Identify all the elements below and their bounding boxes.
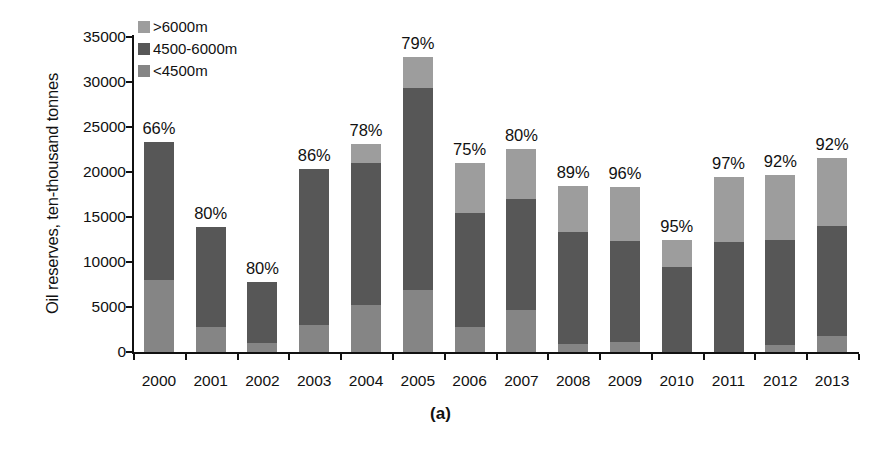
y-axis-title: Oil reserves, ten-thousand tonnes xyxy=(43,24,62,364)
y-tick-label: 20000 xyxy=(64,163,126,181)
y-tick-label: 0 xyxy=(64,343,126,361)
x-tick xyxy=(288,354,290,360)
y-tick-label: 15000 xyxy=(64,208,126,226)
y-tick-label: 35000 xyxy=(64,28,126,46)
bar-2012[interactable] xyxy=(765,175,795,352)
x-tick xyxy=(547,354,549,360)
bar-2010[interactable] xyxy=(662,240,692,353)
y-tick xyxy=(126,216,133,218)
bar-2007[interactable] xyxy=(506,149,536,352)
x-tick xyxy=(806,354,808,360)
bar-segment-lt4500 xyxy=(403,290,433,352)
bar-segment-lt4500 xyxy=(144,280,174,352)
bar-segment-lt4500 xyxy=(817,336,847,352)
y-tick xyxy=(126,351,133,353)
legend-swatch-icon xyxy=(138,21,150,33)
bar-2008[interactable] xyxy=(558,186,588,352)
y-tick-label: 10000 xyxy=(64,253,126,271)
bar-segment-4500-6000 xyxy=(506,199,536,310)
bar-label-2010: 95% xyxy=(642,217,712,236)
legend-item-gt6000: >6000m xyxy=(138,16,237,38)
bar-segment-lt4500 xyxy=(247,343,277,352)
bar-segment-4500-6000 xyxy=(714,242,744,352)
bar-segment-4500-6000 xyxy=(765,240,795,345)
bar-segment-lt4500 xyxy=(455,327,485,352)
bar-segment-4500-6000 xyxy=(455,213,485,327)
bar-2009[interactable] xyxy=(610,187,640,352)
bar-segment-4500-6000 xyxy=(558,232,588,344)
bar-2004[interactable] xyxy=(351,144,381,352)
legend-item-lt4500: <4500m xyxy=(138,60,237,82)
bar-segment-4500-6000 xyxy=(196,227,226,327)
bar-2005[interactable] xyxy=(403,57,433,352)
chart-legend: >6000m 4500-6000m <4500m xyxy=(138,16,237,82)
x-tick xyxy=(754,354,756,360)
x-tick xyxy=(599,354,601,360)
bar-2011[interactable] xyxy=(714,177,744,352)
y-tick xyxy=(126,36,133,38)
bar-segment-4500-6000 xyxy=(351,163,381,305)
bar-segment-gt6000 xyxy=(817,158,847,226)
x-tick xyxy=(133,354,135,360)
bar-segment-lt4500 xyxy=(351,305,381,352)
bar-segment-lt4500 xyxy=(610,342,640,352)
x-tick xyxy=(651,354,653,360)
bar-segment-4500-6000 xyxy=(247,282,277,343)
bar-segment-gt6000 xyxy=(714,177,744,243)
legend-swatch-icon xyxy=(138,43,150,55)
legend-swatch-icon xyxy=(138,65,150,77)
bar-label-2002: 80% xyxy=(227,259,297,278)
bar-segment-4500-6000 xyxy=(144,142,174,280)
x-tick xyxy=(185,354,187,360)
bar-segment-4500-6000 xyxy=(403,88,433,290)
bar-2000[interactable] xyxy=(144,142,174,352)
chart-figure: Oil reserves, ten-thousand tonnes 050001… xyxy=(0,0,881,452)
bar-segment-4500-6000 xyxy=(817,226,847,336)
y-tick xyxy=(126,261,133,263)
bar-segment-lt4500 xyxy=(506,310,536,352)
legend-item-4500-6000: 4500-6000m xyxy=(138,38,237,60)
x-tick xyxy=(237,354,239,360)
bar-label-2000: 66% xyxy=(124,119,194,138)
bar-label-2012: 92% xyxy=(745,152,815,171)
bar-2006[interactable] xyxy=(455,163,485,352)
y-tick xyxy=(126,171,133,173)
x-tick xyxy=(858,354,860,360)
bar-segment-gt6000 xyxy=(610,187,640,241)
y-tick-label: 5000 xyxy=(64,298,126,316)
bar-segment-gt6000 xyxy=(455,163,485,213)
legend-label: >6000m xyxy=(153,16,208,38)
bar-segment-gt6000 xyxy=(351,144,381,163)
bar-2003[interactable] xyxy=(299,169,329,352)
x-tick-label: 2013 xyxy=(802,372,862,390)
bar-label-2004: 78% xyxy=(331,121,401,140)
bar-label-2005: 79% xyxy=(383,34,453,53)
bar-label-2013: 92% xyxy=(797,135,867,154)
y-tick xyxy=(126,306,133,308)
bar-segment-gt6000 xyxy=(662,240,692,267)
y-tick-label: 30000 xyxy=(64,73,126,91)
bar-segment-lt4500 xyxy=(196,327,226,352)
bar-label-2003: 86% xyxy=(279,146,349,165)
x-tick xyxy=(444,354,446,360)
bar-2013[interactable] xyxy=(817,158,847,352)
bar-2002[interactable] xyxy=(247,282,277,352)
bar-2001[interactable] xyxy=(196,227,226,352)
bar-label-2001: 80% xyxy=(176,204,246,223)
bar-segment-gt6000 xyxy=(765,175,795,240)
bar-label-2009: 96% xyxy=(590,164,660,183)
bar-segment-gt6000 xyxy=(506,149,536,199)
y-tick xyxy=(126,81,133,83)
x-tick xyxy=(392,354,394,360)
x-tick xyxy=(340,354,342,360)
bar-segment-4500-6000 xyxy=(610,241,640,342)
legend-label: 4500-6000m xyxy=(153,38,237,60)
legend-label: <4500m xyxy=(153,60,208,82)
plot-area xyxy=(133,37,858,352)
bar-label-2007: 80% xyxy=(486,126,556,145)
bar-segment-lt4500 xyxy=(558,344,588,352)
bar-segment-gt6000 xyxy=(558,186,588,233)
bar-segment-4500-6000 xyxy=(299,169,329,325)
y-tick-label: 25000 xyxy=(64,118,126,136)
bar-segment-gt6000 xyxy=(403,57,433,89)
